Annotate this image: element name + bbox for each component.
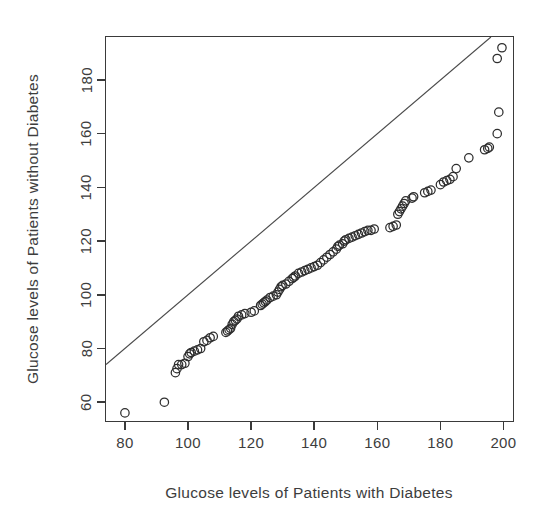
x-axis-tick-label: 100 (175, 434, 201, 451)
x-axis: 80100120140160180200 (116, 422, 516, 452)
y-axis: 6080100120140160180 (78, 67, 106, 411)
data-point (452, 164, 460, 172)
data-point (498, 44, 506, 52)
x-axis-tick-label: 120 (238, 434, 264, 451)
x-axis-tick-label: 160 (364, 434, 390, 451)
scatter-points-group (121, 44, 506, 418)
data-point (121, 409, 129, 417)
y-axis-tick-label: 160 (78, 121, 95, 147)
data-point (160, 398, 168, 406)
data-point (493, 129, 501, 137)
qq-plot-figure: 80100120140160180200 6080100120140160180… (0, 0, 547, 526)
x-axis-tick-label: 200 (490, 434, 516, 451)
y-axis-tick-label: 100 (78, 282, 95, 308)
x-axis-tick-label: 80 (116, 434, 134, 451)
identity-reference-line (106, 37, 491, 365)
data-point (209, 332, 217, 340)
y-axis-title: Glucose levels of Patients without Diabe… (24, 74, 41, 384)
y-axis-tick-label: 120 (78, 228, 95, 254)
data-point (495, 108, 503, 116)
x-axis-title: Glucose levels of Patients with Diabetes (165, 484, 453, 501)
data-point (465, 154, 473, 162)
x-axis-tick-label: 140 (301, 434, 327, 451)
plot-canvas: 80100120140160180200 6080100120140160180… (0, 0, 547, 526)
y-axis-tick-label: 180 (78, 67, 95, 93)
plot-frame (106, 37, 514, 422)
y-axis-tick-label: 80 (78, 340, 95, 358)
y-axis-tick-label: 140 (78, 174, 95, 200)
reference-line-group (106, 37, 491, 365)
data-point (493, 54, 501, 62)
y-axis-tick-label: 60 (78, 393, 95, 411)
x-axis-tick-label: 180 (427, 434, 453, 451)
